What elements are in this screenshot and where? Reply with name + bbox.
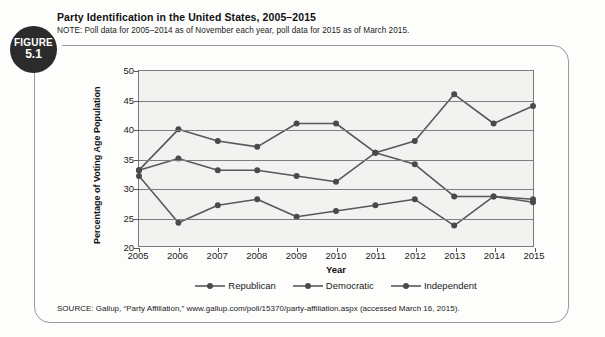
y-tick-mark [134,71,139,72]
x-tick-label: 2012 [405,250,426,261]
data-point-republican-2008 [254,196,260,202]
x-tick-label: 2011 [365,250,385,261]
gridline [139,189,533,190]
plot-area [138,70,534,247]
x-axis-label: Year [138,264,534,275]
data-point-democratic-2008 [254,167,260,173]
chart-legend: RepublicanDemocraticIndependent [138,280,534,291]
data-point-independent-2007 [215,138,221,144]
y-tick-mark [134,160,139,161]
data-point-independent-2010 [333,121,339,127]
x-tick-label: 2005 [127,250,148,261]
data-point-independent-2013 [451,91,457,97]
y-tick-label: 45 [108,94,134,105]
figure-badge: FIGURE 5.1 [10,26,57,73]
y-axis-ticks: 20253035404550 [104,62,134,247]
data-point-republican-2012 [412,196,418,202]
x-tick-label: 2015 [523,250,544,261]
data-point-independent-2008 [254,144,260,150]
legend-label: Democratic [326,280,374,291]
y-tick-label: 35 [108,153,134,164]
legend-item-republican[interactable]: Republican [195,280,276,291]
data-point-independent-2011 [372,150,378,156]
y-tick-mark [134,101,139,102]
data-point-republican-2006 [175,220,181,226]
figure-page: FIGURE 5.1 Party Identification in the U… [0,0,605,337]
data-point-democratic-2012 [412,161,418,167]
page-title: Party Identification in the United State… [57,11,557,23]
data-point-democratic-2014 [491,193,497,199]
data-point-republican-2011 [372,202,378,208]
y-tick-label: 25 [108,212,134,223]
chart: Percentage of Voting Age Population 2025… [90,62,540,297]
data-point-independent-2012 [412,138,418,144]
data-point-independent-2014 [491,121,497,127]
y-tick-label: 40 [108,124,134,135]
data-point-republican-2005 [136,173,142,179]
data-point-democratic-2006 [175,156,181,162]
header-note: NOTE: Poll data for 2005–2014 as of Nove… [57,26,557,35]
y-tick-mark [134,189,139,190]
legend-label: Republican [228,280,276,291]
data-point-independent-2009 [294,121,300,127]
gridline [139,130,533,131]
x-tick-label: 2008 [246,250,267,261]
y-tick-label: 50 [108,65,134,76]
data-point-republican-2013 [451,223,457,229]
legend-marker-icon [195,281,225,291]
y-tick-mark [134,219,139,220]
legend-marker-icon [293,281,323,291]
source-note: SOURCE: Gallup, “Party Affiliation,” www… [57,304,577,313]
data-point-democratic-2010 [333,179,339,185]
x-tick-label: 2013 [444,250,465,261]
legend-item-independent[interactable]: Independent [391,280,477,291]
header: Party Identification in the United State… [57,11,557,35]
x-tick-label: 2014 [484,250,505,261]
data-point-democratic-2007 [215,167,221,173]
data-point-democratic-2013 [451,193,457,199]
data-point-republican-2007 [215,202,221,208]
gridline [139,101,533,102]
data-point-democratic-2015 [530,196,536,202]
legend-marker-icon [391,281,421,291]
legend-label: Independent [424,280,477,291]
figure-badge-number: 5.1 [25,48,42,60]
gridline [139,160,533,161]
x-tick-label: 2010 [325,250,346,261]
gridline [139,219,533,220]
data-point-republican-2010 [333,208,339,214]
x-tick-label: 2007 [207,250,228,261]
y-tick-label: 30 [108,183,134,194]
data-point-independent-2015 [530,103,536,109]
legend-item-democratic[interactable]: Democratic [293,280,374,291]
data-point-democratic-2009 [294,173,300,179]
x-tick-label: 2009 [286,250,307,261]
data-point-independent-2005 [136,167,142,173]
x-axis-ticks: 2005200620072008200920102011201220132014… [138,250,534,264]
y-tick-mark [134,130,139,131]
series-svg [139,71,533,246]
x-tick-label: 2006 [167,250,188,261]
